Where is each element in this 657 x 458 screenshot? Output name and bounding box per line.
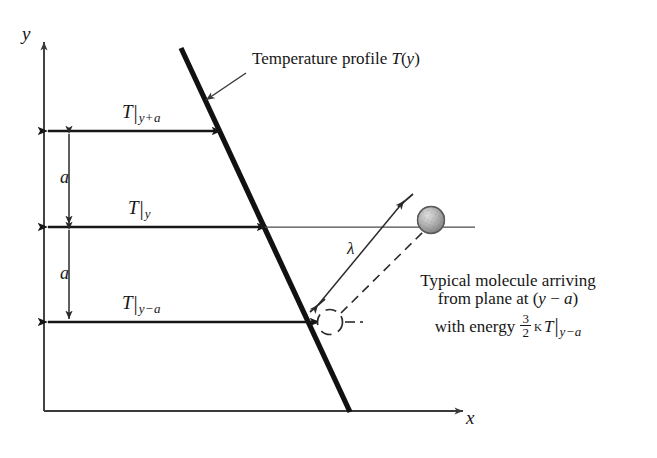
temperature-profile-figure: y x Temperature profile T(y) T|y+a T|y T… [0, 0, 657, 458]
mean-free-path-label: λ [347, 240, 354, 258]
y-axis-label: y [22, 24, 30, 44]
molecule-caption-line3: with energy 32κT|y−a [383, 312, 633, 339]
label-T-symbol: T [122, 292, 133, 313]
label-T-at-y-minus-a: T|y−a [122, 291, 160, 316]
molecule-caption-line1: Typical molecule arriving [383, 272, 633, 290]
label-T-subscript: y [145, 206, 151, 221]
x-axis-label: x [466, 408, 474, 428]
energy-fraction: 32 [520, 312, 531, 339]
label-T-subscript: y+a [139, 110, 161, 125]
label-T-symbol: T [122, 101, 133, 122]
arriving-molecule-sphere [418, 207, 445, 234]
label-T-bar: | [139, 196, 145, 220]
temperature-profile-label-text: Temperature profile [252, 49, 391, 68]
label-T-at-y: T|y [128, 196, 151, 221]
temperature-profile-label: Temperature profile T(y) [252, 50, 420, 68]
molecule-caption: Typical molecule arriving from plane at … [383, 272, 633, 339]
spacing-label-lower: a [60, 264, 69, 283]
spacing-label-upper: a [60, 168, 69, 187]
departing-molecule-circle [318, 310, 364, 335]
molecule-caption-line2: from plane at (y − a) [383, 290, 633, 308]
label-T-bar: | [133, 291, 139, 315]
temperature-profile-line [181, 48, 350, 412]
label-T-symbol: T [128, 197, 139, 218]
temperature-profile-label-paren-close: ) [414, 49, 420, 68]
boltzmann-constant: κ [532, 318, 544, 334]
label-T-at-y-plus-a: T|y+a [122, 100, 160, 125]
label-T-bar: | [133, 100, 139, 124]
profile-label-pointer [206, 73, 246, 100]
figure-canvas [0, 0, 657, 458]
label-T-subscript: y−a [139, 301, 161, 316]
temperature-profile-label-math: T [391, 49, 400, 68]
